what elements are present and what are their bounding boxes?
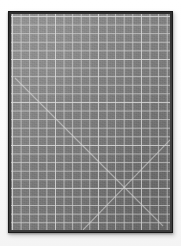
cutting-mat <box>8 11 173 233</box>
mat-cutting-surface <box>11 14 170 230</box>
secondary-diagonal-line <box>83 140 170 230</box>
cutting-mat-photo <box>0 0 181 246</box>
primary-diagonal-line <box>15 78 163 226</box>
mat-diagonal-guides <box>11 14 170 230</box>
